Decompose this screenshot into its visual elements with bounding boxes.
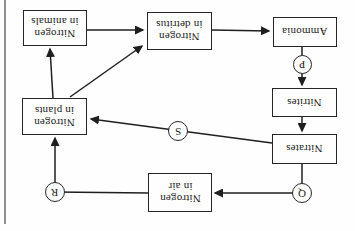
node-nitrogen-in-detritus-label: Nitrogen in detritus <box>156 19 203 43</box>
connector-r-label: R <box>51 187 58 198</box>
node-nitrogen-in-animals: Nitrogen in animals <box>23 10 87 46</box>
node-nitrates: Nitrates <box>272 134 337 164</box>
connector-s-label: S <box>175 126 181 137</box>
nitrogen-cycle-diagram: Nitrogen in animals Nitrogen in detritus… <box>0 0 355 231</box>
node-nitrites: Nitrites <box>272 88 337 117</box>
connector-circle-p: P <box>293 55 312 74</box>
node-ammonia: Ammonia <box>273 17 337 47</box>
node-nitrogen-in-air-label: Nitrogen in air <box>160 181 201 205</box>
connector-circle-s: S <box>168 121 188 141</box>
node-nitrites-label: Nitrites <box>287 97 322 109</box>
connector-circle-r: R <box>45 182 65 202</box>
connector-p-label: P <box>299 59 305 70</box>
node-ammonia-label: Ammonia <box>282 26 327 38</box>
node-nitrogen-in-plants-label: Nitrogen in plants <box>34 105 75 129</box>
connector-q-label: Q <box>298 188 306 199</box>
node-nitrogen-in-detritus: Nitrogen in detritus <box>147 12 212 50</box>
node-nitrogen-in-air: Nitrogen in air <box>148 173 212 212</box>
node-nitrates-label: Nitrates <box>286 143 322 155</box>
connector-circle-q: Q <box>292 183 312 203</box>
node-nitrogen-in-plants: Nitrogen in plants <box>22 98 87 135</box>
node-nitrogen-in-animals-label: Nitrogen in animals <box>31 16 79 40</box>
